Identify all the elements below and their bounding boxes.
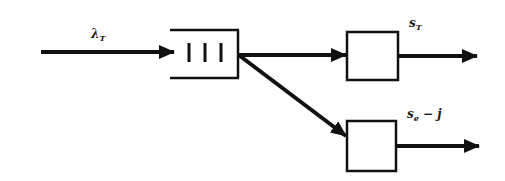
- arrival-rate-label: λT: [91, 28, 105, 42]
- server-2-output-suffix: − j: [419, 107, 442, 121]
- server-2-output-symbol: s: [407, 107, 414, 121]
- server-1-box: [347, 32, 398, 80]
- queue-buffer: [170, 30, 239, 78]
- server-1-output-subscript: T: [416, 22, 422, 32]
- arrival-rate-subscript: T: [99, 33, 105, 43]
- server-2-output-label: se − j: [407, 108, 442, 122]
- diagram-canvas: [0, 0, 505, 181]
- server-2-box: [347, 121, 396, 171]
- server-1-output-symbol: s: [409, 16, 416, 30]
- arrow-queue-to-server-2: [240, 56, 346, 136]
- server-1-output-label: sT: [409, 17, 422, 31]
